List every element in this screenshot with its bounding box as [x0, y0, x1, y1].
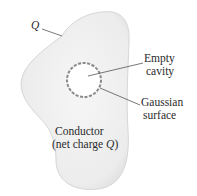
leader-line-q [42, 29, 62, 36]
surface-charge-label: Q [31, 19, 40, 31]
conductor-label-line2: (net charge Q) [52, 138, 118, 151]
conductor-label-prefix: (net charge [52, 138, 106, 151]
conductor-body [21, 12, 129, 190]
gaussian-label-line1: Gaussian [141, 96, 183, 108]
conductor-label-line1: Conductor [55, 125, 104, 137]
cavity-label-line1: Empty [144, 52, 175, 65]
empty-cavity [68, 64, 100, 96]
conductor-cavity-diagram: Q Empty cavity Gaussian surface Conducto… [0, 0, 197, 196]
gaussian-label-line2: surface [143, 109, 176, 121]
cavity-label-line2: cavity [146, 65, 174, 78]
conductor-label-suffix: ) [114, 138, 118, 151]
